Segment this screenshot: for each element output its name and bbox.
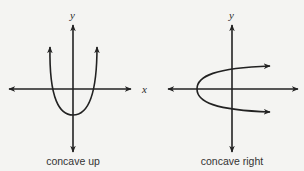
- left-y-axis-label: y: [69, 9, 75, 21]
- left-parabola-left-arm: [50, 47, 73, 115]
- caption-concave-right: concave right: [172, 155, 292, 167]
- right-y-axis-label: y: [228, 9, 234, 21]
- concavity-diagram: y x y: [0, 0, 304, 171]
- left-parabola-right-arm: [73, 47, 97, 115]
- left-x-axis-label: x: [141, 83, 147, 95]
- caption-concave-up: concave up: [13, 155, 133, 167]
- panel-concave-right: y: [168, 9, 298, 152]
- right-parabola-upper-arm: [197, 66, 270, 89]
- panel-concave-up: y x: [9, 9, 147, 152]
- right-parabola-lower-arm: [197, 89, 270, 112]
